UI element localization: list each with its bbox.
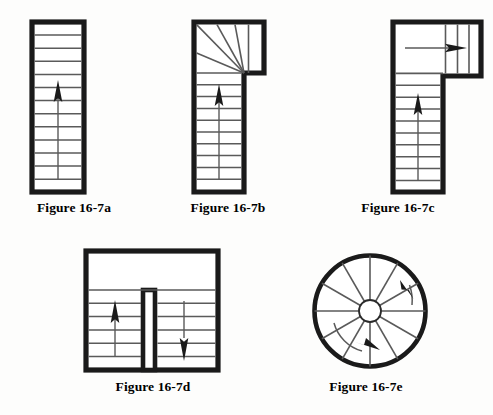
figure-16-7b: [185, 16, 285, 198]
figure-16-7a: [26, 16, 96, 198]
l-shaped-stair-drawing: [355, 16, 487, 198]
caption-figure-16-7a: Figure 16-7a: [14, 200, 134, 216]
caption-figure-16-7d: Figure 16-7d: [88, 379, 218, 395]
figure-16-7d: [80, 245, 224, 373]
spiral-stair-drawing: [308, 249, 432, 373]
caption-figure-16-7c: Figure 16-7c: [320, 200, 476, 216]
straight-stair-drawing: [26, 16, 96, 198]
caption-figure-16-7b: Figure 16-7b: [168, 200, 288, 216]
center-post: [359, 300, 381, 322]
figure-16-7e: [308, 249, 432, 373]
figure-sheet: Figure 16-7a: [0, 0, 493, 415]
winder-stair-drawing: [185, 16, 285, 198]
center-wall: [143, 290, 155, 370]
caption-figure-16-7e: Figure 16-7e: [286, 379, 446, 395]
u-shaped-stair-drawing: [80, 245, 224, 373]
figure-16-7c: [355, 16, 487, 198]
